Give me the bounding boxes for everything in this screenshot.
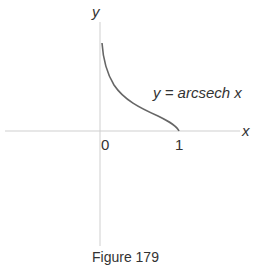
figure-caption: Figure 179 [92, 250, 159, 264]
y-axis-label: y [92, 4, 100, 19]
x-tick-0: 0 [101, 137, 109, 152]
equation-label: y = arcsech x [153, 85, 242, 100]
x-tick-1: 1 [175, 137, 183, 152]
x-axis-label: x [242, 123, 250, 138]
